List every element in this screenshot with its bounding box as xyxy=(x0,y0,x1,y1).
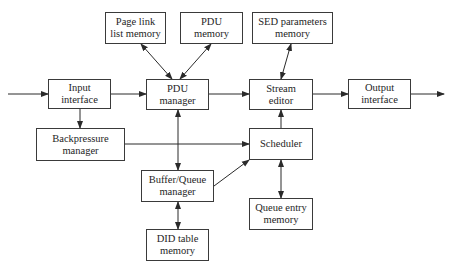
block-label-line2: manager xyxy=(62,145,98,157)
block-label-line2: editor xyxy=(269,95,294,107)
block-label-line1: Output xyxy=(365,82,394,94)
block-label-line1: SED parameters xyxy=(258,16,327,28)
arrow-pdu-memory-pdu-manager xyxy=(180,44,211,79)
block-label-line1: Scheduler xyxy=(260,138,302,150)
block-label-line2: list memory xyxy=(110,28,160,40)
input-interface-block: Input interface xyxy=(48,79,111,109)
pdu-memory-block: PDU memory xyxy=(180,12,243,44)
page-link-list-memory-block: Page link list memory xyxy=(105,12,166,44)
block-label-line2: interface xyxy=(361,94,398,106)
block-label-line2: memory xyxy=(275,28,310,40)
block-label-line1: DID table xyxy=(157,233,199,245)
queue-entry-memory-block: Queue entry memory xyxy=(249,198,313,230)
pdu-manager-block: PDU manager xyxy=(146,79,209,110)
arrow-page-link-pdu-manager xyxy=(141,44,172,79)
block-label-line2: memory xyxy=(160,245,195,257)
block-label-line1: Stream xyxy=(266,83,296,95)
block-label-line2: manager xyxy=(159,186,195,198)
block-label-line1: Page link xyxy=(116,16,155,28)
block-label-line2: memory xyxy=(194,28,229,40)
block-label-line1: PDU xyxy=(167,83,188,95)
block-label-line2: manager xyxy=(159,95,195,107)
block-label-line1: PDU xyxy=(201,16,222,28)
did-table-memory-block: DID table memory xyxy=(146,229,209,261)
block-label-line2: memory xyxy=(264,214,299,226)
output-interface-block: Output interface xyxy=(348,79,411,109)
block-label-line2: interface xyxy=(61,94,98,106)
buffer-queue-manager-block: Buffer/Queue manager xyxy=(141,170,214,202)
block-label-line1: Buffer/Queue xyxy=(149,174,207,186)
block-label-line1: Backpressure xyxy=(52,133,109,145)
sed-parameters-memory-block: SED parameters memory xyxy=(252,12,333,44)
block-label-line1: Queue entry xyxy=(255,202,307,214)
stream-editor-block: Stream editor xyxy=(249,79,313,110)
backpressure-manager-block: Backpressure manager xyxy=(36,128,125,161)
block-diagram: Page link list memory PDU memory SED par… xyxy=(0,0,450,271)
block-label-line1: Input xyxy=(68,82,90,94)
arrow-buffer-queue-to-scheduler xyxy=(214,160,249,186)
arrow-sed-stream-editor xyxy=(281,44,291,79)
scheduler-block: Scheduler xyxy=(249,128,313,160)
